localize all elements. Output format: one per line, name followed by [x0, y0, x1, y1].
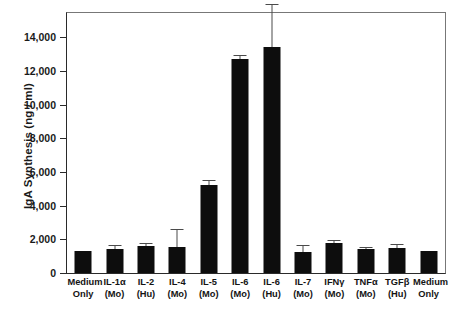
error-bar-cap — [139, 243, 152, 244]
bar[interactable] — [232, 59, 249, 273]
error-bar-cap — [265, 4, 278, 5]
x-axis-label-line2: Only — [413, 289, 444, 301]
x-axis-label-line2: (Hu) — [382, 289, 413, 301]
bar-group — [99, 12, 130, 273]
y-axis-tick-label: 10,000 — [0, 100, 56, 111]
error-bar — [303, 246, 304, 252]
error-bar — [114, 246, 115, 249]
bar-group — [224, 12, 255, 273]
bar[interactable] — [295, 252, 312, 273]
x-axis-label-line2: (Hu) — [256, 289, 287, 301]
y-axis-tick-label: 2,000 — [0, 234, 56, 245]
x-axis-label-line2: (Mo) — [162, 289, 193, 301]
error-bar-cap — [328, 240, 341, 241]
x-axis-label-line1: Medium — [67, 277, 98, 289]
error-bar-cap — [108, 245, 121, 246]
y-axis-tick-label: 4,000 — [0, 201, 56, 212]
x-axis-label: IL-6(Mo) — [224, 277, 255, 300]
y-axis-tick-label: 6,000 — [0, 167, 56, 178]
y-axis-tick-label: 14,000 — [0, 32, 56, 43]
bar-group — [193, 12, 224, 273]
x-axis-label-line1: IL-2 — [130, 277, 161, 289]
x-axis-label-line2: (Mo) — [99, 289, 130, 301]
bar[interactable] — [357, 249, 374, 273]
x-axis-label: TNFα(Mo) — [350, 277, 381, 300]
x-axis-label-line1: IL-6 — [256, 277, 287, 289]
bar[interactable] — [389, 248, 406, 273]
bar-group — [287, 12, 318, 273]
x-axis-label: TGFβ(Hu) — [382, 277, 413, 300]
error-bar-cap — [202, 180, 215, 181]
x-axis-label: IL-4(Mo) — [162, 277, 193, 300]
error-bar-cap — [391, 244, 404, 245]
x-axis-label: IL-5(Mo) — [193, 277, 224, 300]
x-axis-label: IFNγ(Mo) — [319, 277, 350, 300]
x-axis-label-line2: Only — [67, 289, 98, 301]
bar-group — [413, 12, 444, 273]
error-bar — [397, 245, 398, 248]
bar-group — [319, 12, 350, 273]
error-bar — [365, 248, 366, 250]
bar-group — [382, 12, 413, 273]
x-axis-label: MediumOnly — [67, 277, 98, 300]
y-axis-tick-label: 8,000 — [0, 133, 56, 144]
x-axis-label-line1: TGFβ — [382, 277, 413, 289]
bar[interactable] — [200, 185, 217, 273]
error-bar-cap — [171, 229, 184, 230]
error-bar-cap — [234, 55, 247, 56]
x-axis-label: IL-7(Mo) — [287, 277, 318, 300]
x-axis-label-line1: IL-7 — [287, 277, 318, 289]
bar[interactable] — [169, 247, 186, 273]
x-axis-tick-labels: MediumOnlyIL-1α(Mo)IL-2(Hu)IL-4(Mo)IL-5(… — [67, 277, 444, 311]
x-axis-label-line1: IL-6 — [224, 277, 255, 289]
bar[interactable] — [137, 246, 154, 273]
x-axis-label: IL-1α(Mo) — [99, 277, 130, 300]
figure-container: IgA Synthesis (ng / ml) 02,0004,0006,000… — [0, 0, 455, 313]
x-axis-label-line1: TNFα — [350, 277, 381, 289]
x-axis-label-line2: (Mo) — [224, 289, 255, 301]
error-bar-cap — [359, 247, 372, 248]
x-axis-label-line1: IL-1α — [99, 277, 130, 289]
bar-group — [130, 12, 161, 273]
x-axis-label-line2: (Mo) — [287, 289, 318, 301]
x-axis-label-line2: (Mo) — [193, 289, 224, 301]
bar[interactable] — [326, 243, 343, 273]
x-axis-label-line2: (Mo) — [319, 289, 350, 301]
error-bar — [208, 181, 209, 185]
bar[interactable] — [263, 47, 280, 273]
bar-group — [256, 12, 287, 273]
x-axis-label: IL-2(Hu) — [130, 277, 161, 300]
bar[interactable] — [420, 251, 437, 273]
x-axis-label: IL-6(Hu) — [256, 277, 287, 300]
x-axis-label-line1: Medium — [413, 277, 444, 289]
bar-group — [67, 12, 98, 273]
error-bar — [240, 56, 241, 59]
bar[interactable] — [75, 251, 92, 273]
bar-group — [350, 12, 381, 273]
error-bar — [177, 230, 178, 247]
x-axis-label-line1: IL-5 — [193, 277, 224, 289]
bar-group — [162, 12, 193, 273]
error-bar — [334, 241, 335, 243]
error-bar-cap — [297, 245, 310, 246]
y-axis-tick-label: 0 — [0, 268, 56, 279]
x-axis-label: MediumOnly — [413, 277, 444, 300]
x-axis-label-line1: IL-4 — [162, 277, 193, 289]
bar[interactable] — [106, 249, 123, 273]
x-axis-label-line2: (Mo) — [350, 289, 381, 301]
error-bar — [145, 244, 146, 246]
bar-series — [67, 12, 444, 273]
x-axis-label-line1: IFNγ — [319, 277, 350, 289]
x-axis-label-line2: (Hu) — [130, 289, 161, 301]
y-axis-tick-label: 12,000 — [0, 66, 56, 77]
error-bar — [271, 5, 272, 47]
